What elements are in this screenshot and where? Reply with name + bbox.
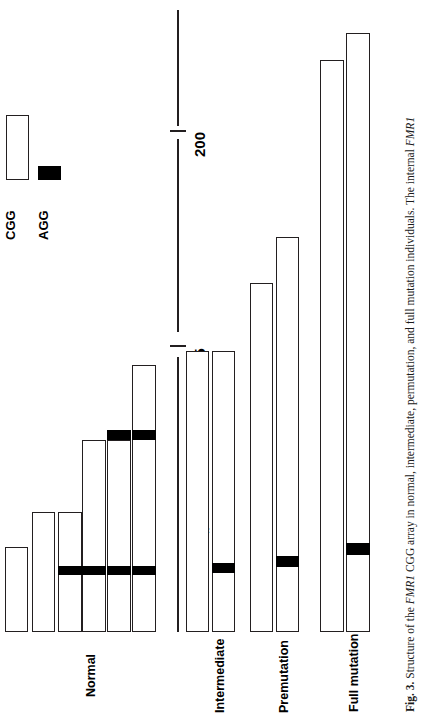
bar-premutation-1 (250, 283, 273, 632)
agg-band (132, 566, 156, 575)
caption-text-1: Structure of the (404, 604, 416, 681)
agg-band (107, 430, 131, 440)
bar-fullmutation-2 (346, 33, 370, 632)
bar-intermediate-1 (186, 351, 209, 632)
axis-line-lower (177, 357, 179, 632)
figure-container: CGG AGG 200 55 (CGG)n number Normal Inte… (0, 0, 422, 718)
caption-text-2: CGG array in normal, intermediate, permu… (404, 146, 416, 575)
agg-band (107, 566, 131, 575)
legend-cgg-label: CGG (3, 210, 18, 240)
bar-normal-4 (82, 440, 106, 632)
bar-fullmutation-1 (320, 60, 344, 632)
group-label-intermediate: Intermediate (213, 639, 227, 713)
bar-intermediate-2 (212, 351, 235, 632)
bar-normal-6 (132, 365, 156, 632)
axis-line-middle (177, 139, 179, 332)
group-label-normal: Normal (84, 654, 98, 697)
group-label-premutation: Premutation (277, 640, 291, 713)
caption-gene-2: FMR1 (404, 117, 416, 146)
agg-band (132, 430, 156, 440)
axis-tick-200 (170, 130, 186, 132)
figure-caption: Fig. 3. Structure of the FMR1 CGG array … (404, 117, 417, 712)
agg-band (82, 566, 106, 575)
legend-cgg-swatch (6, 115, 29, 180)
legend-agg-swatch (38, 166, 61, 180)
bar-premutation-2 (276, 237, 299, 632)
axis-tick-55 (170, 345, 186, 347)
agg-band (346, 543, 370, 555)
bar-normal-1 (5, 547, 28, 632)
caption-gene-1: FMR1 (404, 575, 416, 604)
agg-band (276, 556, 299, 567)
bar-normal-5 (107, 440, 131, 632)
agg-band (212, 563, 235, 573)
legend-agg-label: AGG (36, 210, 51, 240)
caption-figure-number: Fig. 3. (404, 682, 416, 712)
bar-normal-3 (58, 512, 82, 632)
axis-tick-label-200: 200 (191, 132, 208, 157)
group-label-fullmutation: Full mutation (347, 634, 361, 712)
agg-band (58, 566, 82, 575)
bar-normal-2 (32, 512, 55, 632)
axis-line-upper (177, 10, 179, 126)
